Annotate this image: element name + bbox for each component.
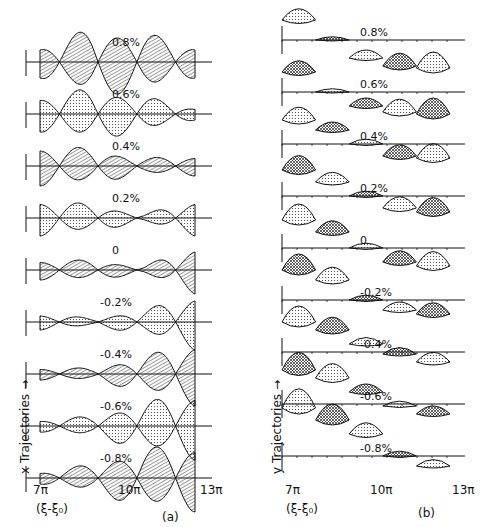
panel-b-ylabel: y Trajectories →: [270, 372, 284, 482]
panel-a-id: (a): [162, 510, 179, 524]
panel-a-xtick-7pi: 7π: [33, 483, 48, 497]
trace-label: 0.8%: [360, 26, 388, 39]
trace-label: 0: [360, 234, 367, 247]
trace-label: -0.8%: [100, 452, 132, 465]
trace-label: 0.2%: [112, 192, 140, 205]
panel-b: 0.8%0.6%0.4%0.2%0-0.2%-0.4%-0.6%-0.8%: [282, 9, 465, 470]
panel-a-xtick-10pi: 10π: [118, 483, 141, 497]
trace-label: -0.2%: [100, 296, 132, 309]
trace-b: 0.8%: [282, 9, 465, 73]
panel-a-xlabel: (ξ-ξ₀): [36, 502, 68, 516]
panel-b-id: (b): [418, 506, 435, 520]
panel-a-ylabel: x Trajectories →: [18, 372, 32, 482]
trace-label: 0: [112, 244, 119, 257]
trace-a: -0.6%: [26, 399, 212, 460]
figure: 0.8%0.6%0.4%0.2%0-0.2%-0.4%-0.6%-0.8% 0.…: [0, 0, 493, 527]
trace-a: 0.8%: [26, 32, 212, 94]
trace-a: 0: [26, 244, 212, 294]
trace-label: 0.4%: [112, 140, 140, 153]
trace-label: -0.2%: [360, 286, 392, 299]
panel-b-xtick-13pi: 13π: [452, 483, 475, 497]
panel-b-xlabel: (ξ-ξ₀): [286, 502, 318, 516]
panel-a-xtick-13pi: 13π: [200, 483, 223, 497]
trace-b: 0.2%: [282, 156, 465, 217]
trace-label: 0.4%: [360, 130, 388, 143]
trace-label: 0.6%: [112, 88, 140, 101]
panel-b-xtick-7pi: 7π: [285, 483, 300, 497]
trace-a: -0.2%: [26, 296, 212, 350]
trace-label: -0.6%: [100, 400, 132, 413]
trace-label: -0.8%: [360, 442, 392, 455]
trace-label: 0.6%: [360, 78, 388, 91]
panel-b-xtick-10pi: 10π: [370, 483, 393, 497]
trace-a: 0.2%: [26, 192, 212, 236]
trace-label: -0.6%: [360, 390, 392, 403]
trace-a: -0.4%: [26, 348, 212, 406]
trace-a: 0.6%: [26, 88, 212, 136]
trace-a: 0.4%: [26, 140, 212, 186]
trace-label: 0.8%: [112, 36, 140, 49]
trace-label: -0.4%: [360, 338, 392, 351]
trace-label: 0.2%: [360, 182, 388, 195]
trace-label: -0.4%: [100, 348, 132, 361]
panel-a: 0.8%0.6%0.4%0.2%0-0.2%-0.4%-0.6%-0.8%: [26, 32, 212, 512]
